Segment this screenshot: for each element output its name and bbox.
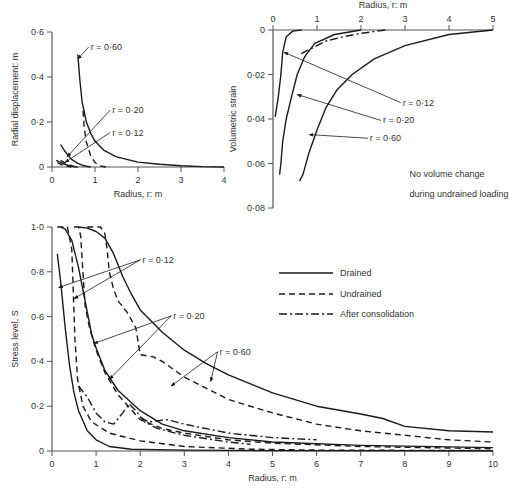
annotation-label: r = 0·60	[220, 347, 251, 357]
annotation-label: r = 0·60	[91, 42, 122, 52]
x-axis-label: Radius, r: m	[359, 0, 408, 10]
x-tick-label: 2	[135, 175, 140, 185]
legend-label: After consolidation	[340, 309, 414, 319]
annotation-label: r = 0·20	[112, 105, 143, 115]
x-tick-label: 7	[358, 459, 363, 469]
series-line	[57, 227, 493, 451]
y-tick-label: 0·2	[31, 117, 44, 127]
radial-displacement-plot: 0123400·20·40·6Radius, r: mRadial displa…	[10, 27, 227, 199]
series-line	[140, 417, 316, 439]
x-tick-label: 1	[314, 14, 319, 24]
series-line	[79, 227, 494, 432]
x-tick-label: 4	[221, 175, 226, 185]
x-tick-label: 0	[49, 175, 54, 185]
x-tick-label: 0	[49, 459, 54, 469]
annotation-label: r = 0·60	[370, 133, 401, 143]
annotation-label: during undrained loading	[409, 189, 508, 199]
annotation-label: r = 0·12	[403, 98, 434, 108]
x-tick-label: 6	[314, 459, 319, 469]
x-tick-label: 4	[446, 14, 451, 24]
annotation-label: r = 0·12	[142, 255, 173, 265]
x-tick-label: 10	[488, 459, 498, 469]
x-tick-label: 0	[270, 14, 275, 24]
figure: 0123400·20·40·6Radius, r: mRadial displa…	[0, 0, 509, 494]
x-tick-label: 3	[178, 175, 183, 185]
y-tick-label: 0·6	[31, 312, 44, 322]
y-tick-label: 0	[260, 25, 265, 35]
x-tick-label: 2	[138, 459, 143, 469]
annotation-label: r = 0·20	[173, 311, 204, 321]
legend: DrainedUndrainedAfter consolidation	[279, 268, 414, 319]
y-axis-label: Stress level, S	[10, 310, 20, 368]
annotation-arrow	[284, 52, 401, 102]
y-tick-label: 1·0	[31, 222, 44, 232]
x-axis-label: Radius, r: m	[114, 189, 163, 199]
x-tick-label: 8	[402, 459, 407, 469]
annotation-label: r = 0·12	[112, 128, 143, 138]
series-line	[280, 30, 361, 175]
stress-level-plot: 01234567891000·20·40·60·81·0Radius, r: m…	[10, 222, 498, 483]
x-tick-label: 3	[182, 459, 187, 469]
y-tick-label: 0	[39, 162, 44, 172]
x-tick-label: 2	[358, 14, 363, 24]
volumetric-strain-plot: 01234500·020·040·060·08Radius, r: mVolum…	[228, 0, 508, 213]
y-tick-label: 0·4	[31, 356, 44, 366]
annotation-label: No volume change	[409, 169, 484, 179]
x-tick-label: 5	[270, 459, 275, 469]
annotation-arrow	[297, 95, 381, 121]
series-line	[57, 254, 493, 451]
annotation-arrow	[109, 316, 171, 379]
x-tick-label: 1	[94, 459, 99, 469]
y-tick-label: 0·08	[247, 203, 265, 213]
x-tick-label: 5	[490, 14, 495, 24]
annotation-arrow	[309, 135, 368, 139]
legend-label: Drained	[340, 268, 372, 278]
series-line	[79, 386, 251, 444]
y-tick-label: 0·02	[247, 70, 265, 80]
y-tick-label: 0	[39, 446, 44, 456]
y-tick-label: 0·8	[31, 267, 44, 277]
y-tick-label: 0·4	[31, 72, 44, 82]
annotation-label: r = 0·20	[383, 115, 414, 125]
annotation-arrow	[78, 47, 89, 59]
y-tick-label: 0·06	[247, 159, 265, 169]
y-axis-label: Radial displacement: m	[10, 53, 20, 147]
series-line	[299, 30, 493, 181]
annotation-arrow	[65, 133, 110, 163]
x-tick-label: 4	[226, 459, 231, 469]
x-tick-label: 3	[402, 14, 407, 24]
x-tick-label: 9	[446, 459, 451, 469]
y-tick-label: 0·04	[247, 114, 265, 124]
y-axis-label: Volumetric strain	[228, 86, 238, 153]
legend-label: Undrained	[340, 289, 382, 299]
y-tick-label: 0·2	[31, 401, 44, 411]
y-tick-label: 0·6	[31, 27, 44, 37]
series-line	[78, 55, 224, 168]
x-axis-label: Radius, r: m	[248, 473, 297, 483]
x-tick-label: 1	[92, 175, 97, 185]
